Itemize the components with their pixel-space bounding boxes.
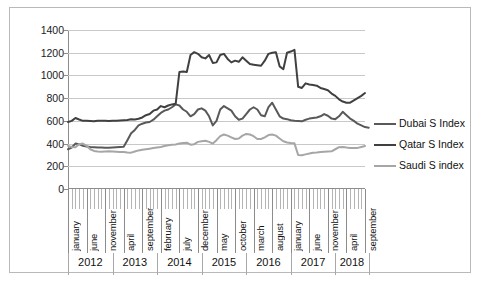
x-tick: [157, 189, 158, 209]
x-month-label: november: [107, 191, 118, 251]
x-tick: [105, 189, 106, 253]
x-month-label: november: [329, 191, 340, 251]
legend-label: Saudi S index: [399, 160, 464, 171]
legend-swatch: [374, 123, 396, 125]
x-tick: [101, 189, 102, 209]
x-tick: [324, 189, 325, 209]
legend-item[interactable]: Qatar S Index: [374, 134, 474, 155]
x-year-label: 2012: [68, 256, 113, 268]
chart-screenshot: 0200400600800100012001400 januaryjunenov…: [0, 0, 485, 289]
x-tick: [213, 189, 214, 209]
legend-label: Dubai S Index: [399, 118, 465, 129]
x-month-label: september: [144, 191, 155, 251]
y-axis-labels: 0200400600800100012001400: [10, 8, 64, 198]
legend-item[interactable]: Saudi S index: [374, 155, 474, 176]
y-tick-label: 1000: [41, 70, 64, 80]
year-separator: [369, 253, 370, 275]
x-month-label: may: [218, 191, 229, 251]
x-month-label: june: [311, 191, 322, 251]
y-tick-label: 1400: [41, 25, 64, 35]
series-lines: [68, 30, 365, 189]
plot-area: [68, 30, 365, 189]
x-month-label: march: [255, 191, 266, 251]
x-tick: [176, 189, 177, 209]
x-month-label: september: [367, 191, 378, 251]
x-tick: [68, 189, 69, 253]
x-year-label: 2013: [113, 256, 158, 268]
x-tick: [120, 189, 121, 209]
x-year-label: 2017: [291, 256, 336, 268]
legend-swatch: [374, 165, 396, 167]
x-month-label: january: [292, 191, 303, 251]
x-month-label: april: [125, 191, 136, 251]
series-line: [68, 103, 369, 150]
x-month-label: june: [88, 191, 99, 251]
x-tick: [365, 189, 366, 253]
x-tick: [194, 189, 195, 209]
x-month-label: april: [348, 191, 359, 251]
series-line: [68, 134, 365, 155]
x-tick: [268, 189, 269, 209]
x-tick: [306, 189, 307, 209]
x-tick: [235, 189, 236, 253]
x-month-label: january: [70, 191, 81, 251]
x-year-label: 2014: [157, 256, 202, 268]
x-year-label: 2015: [202, 256, 247, 268]
x-month-label: february: [162, 191, 173, 251]
series-line: [68, 50, 365, 122]
x-axis-month-labels: januaryjunenovemberaprilseptemberfebruar…: [68, 189, 365, 253]
x-tick: [83, 189, 84, 209]
x-year-label: 2018: [335, 256, 368, 268]
x-tick: [287, 189, 288, 209]
y-tick-label: 600: [46, 116, 64, 126]
y-tick-label: 800: [46, 93, 64, 103]
x-tick: [343, 189, 344, 209]
chart-frame: 0200400600800100012001400 januaryjunenov…: [9, 7, 471, 273]
x-month-label: october: [237, 191, 248, 251]
legend-label: Qatar S Index: [399, 139, 464, 150]
y-tick-label: 400: [46, 139, 64, 149]
x-tick: [231, 189, 232, 209]
x-tick: [250, 189, 251, 209]
y-tick-label: 1200: [41, 48, 64, 58]
y-tick-label: 200: [46, 161, 64, 171]
x-month-label: july: [181, 191, 192, 251]
x-tick: [139, 189, 140, 209]
x-tick: [361, 189, 362, 209]
x-month-label: august: [274, 191, 285, 251]
chart-legend: Dubai S IndexQatar S IndexSaudi S index: [374, 113, 474, 176]
x-month-label: december: [199, 191, 210, 251]
x-axis-year-labels: 2012201320142015201620172018: [68, 253, 365, 275]
legend-item[interactable]: Dubai S Index: [374, 113, 474, 134]
legend-swatch: [374, 144, 396, 146]
x-year-label: 2016: [246, 256, 291, 268]
